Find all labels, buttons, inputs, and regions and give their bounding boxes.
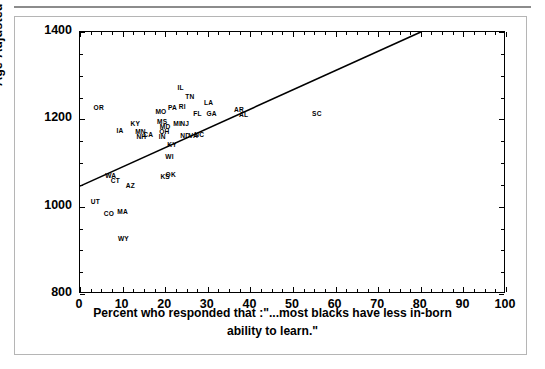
data-point-label: WI [165, 152, 173, 159]
x-tick-top [165, 32, 166, 37]
x-tick-top [506, 32, 507, 37]
x-tick-top [325, 32, 326, 35]
data-point-label: RI [179, 103, 186, 110]
x-tick-bottom [378, 287, 379, 292]
data-point-label: SC [312, 110, 322, 117]
x-tick-bottom [272, 289, 273, 292]
x-tick-bottom [155, 289, 156, 292]
y-tick-left [80, 185, 83, 186]
data-point-label: LA [204, 98, 213, 105]
y-tick-left [80, 229, 83, 230]
y-tick-right [501, 141, 504, 142]
y-tick-right [499, 119, 504, 120]
data-point-label: OR [94, 104, 104, 111]
x-tick-top [485, 32, 486, 35]
x-tick-top [453, 32, 454, 35]
x-tick-bottom [421, 287, 422, 292]
x-tick-top [442, 32, 443, 35]
data-point-label: MA [117, 208, 128, 215]
y-axis-title: Age-Adjusted Black Mortality Rate [0, 0, 5, 86]
data-point-label: IN [159, 132, 166, 139]
figure-root: Age-Adjusted Black Mortality Rate ORIAKY… [0, 0, 545, 369]
data-point-label: NC [194, 131, 204, 138]
x-tick-top [272, 32, 273, 35]
x-tick-top [187, 32, 188, 35]
x-tick-top [144, 32, 145, 35]
y-tick-left [80, 141, 83, 142]
y-tick-label: 1200 [34, 110, 72, 124]
x-tick-top [495, 32, 496, 35]
x-tick-top [474, 32, 475, 35]
x-tick-top [176, 32, 177, 35]
x-tick-bottom [314, 289, 315, 292]
data-point-label: AZ [126, 181, 135, 188]
x-tick-top [261, 32, 262, 35]
y-tick-left [80, 163, 83, 164]
y-tick-left [80, 294, 85, 295]
x-tick-bottom [80, 287, 81, 292]
x-tick-bottom [165, 287, 166, 292]
y-tick-label: 1400 [34, 23, 72, 37]
plot-area: ORIAKYMNNHCAMOMSMDOHINPARIILMINJKYWINDVA… [79, 31, 505, 293]
x-tick-bottom [101, 289, 102, 292]
x-tick-top [463, 32, 464, 37]
data-point-label: UT [91, 197, 100, 204]
x-tick-bottom [91, 289, 92, 292]
x-tick-top [282, 32, 283, 35]
x-tick-top [250, 32, 251, 37]
data-point-label: FL [193, 109, 201, 116]
y-tick-left [80, 250, 83, 251]
y-tick-right [501, 76, 504, 77]
y-tick-left [80, 207, 85, 208]
x-tick-top [112, 32, 113, 35]
x-tick-top [293, 32, 294, 37]
data-point-label: NJ [180, 119, 189, 126]
x-tick-bottom [293, 287, 294, 292]
x-tick-top [421, 32, 422, 37]
x-tick-top [400, 32, 401, 35]
x-tick-bottom [240, 289, 241, 292]
data-point-label: KY [167, 140, 177, 147]
data-point-label: TN [185, 93, 194, 100]
data-point-label: PA [168, 104, 177, 111]
data-point-label: CA [143, 131, 153, 138]
x-tick-bottom [261, 289, 262, 292]
x-tick-bottom [176, 289, 177, 292]
x-tick-bottom [442, 289, 443, 292]
x-tick-bottom [357, 289, 358, 292]
y-tick-right [501, 250, 504, 251]
y-tick-right [501, 163, 504, 164]
x-tick-bottom [144, 289, 145, 292]
data-point-label: WY [118, 235, 129, 242]
x-tick-top [240, 32, 241, 35]
data-point-label: GA [206, 110, 216, 117]
x-tick-bottom [495, 289, 496, 292]
y-tick-left [80, 76, 83, 77]
y-tick-label: 800 [34, 285, 72, 299]
data-point-label: AL [239, 110, 248, 117]
x-tick-bottom [389, 289, 390, 292]
x-tick-top [314, 32, 315, 35]
x-tick-bottom [133, 289, 134, 292]
x-tick-top [431, 32, 432, 35]
y-tick-right [499, 207, 504, 208]
y-tick-right [501, 272, 504, 273]
x-tick-bottom [208, 287, 209, 292]
x-tick-bottom [485, 289, 486, 292]
x-tick-top [368, 32, 369, 35]
x-tick-top [123, 32, 124, 37]
y-tick-right [501, 98, 504, 99]
x-tick-top [208, 32, 209, 37]
x-tick-top [410, 32, 411, 35]
x-tick-top [389, 32, 390, 35]
x-tick-bottom [368, 289, 369, 292]
data-point-label: MO [155, 108, 166, 115]
x-tick-bottom [112, 289, 113, 292]
x-tick-top [91, 32, 92, 35]
x-tick-top [197, 32, 198, 35]
x-tick-bottom [453, 289, 454, 292]
x-tick-bottom [250, 287, 251, 292]
x-tick-top [218, 32, 219, 35]
x-tick-top [336, 32, 337, 37]
data-point-label: IA [117, 127, 124, 134]
